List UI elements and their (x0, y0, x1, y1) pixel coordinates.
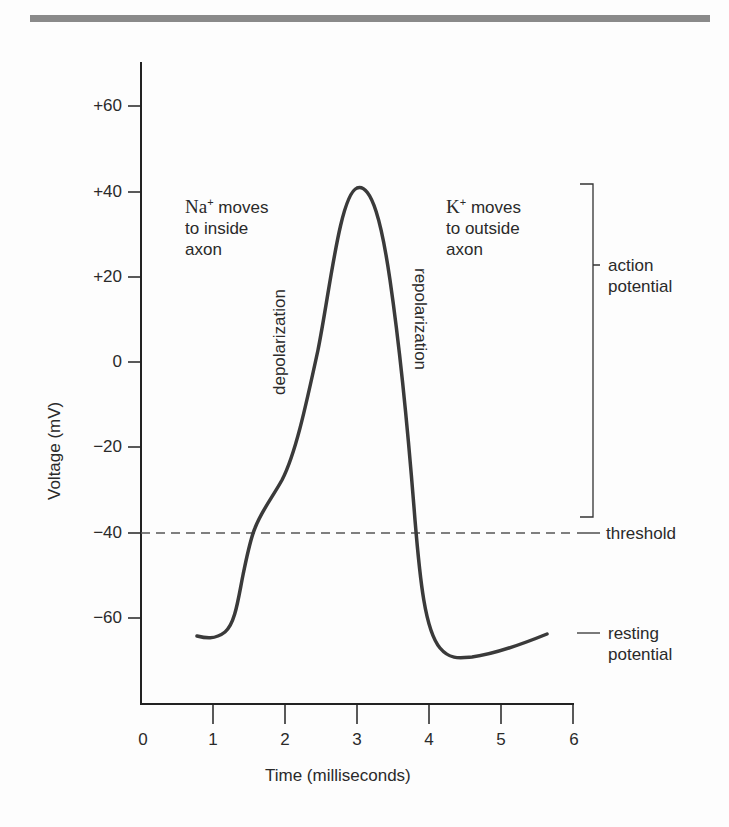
x-tick-label: 2 (275, 730, 295, 750)
x-tick-label: 3 (347, 730, 367, 750)
y-ticks (128, 106, 141, 618)
chart-canvas (0, 0, 729, 827)
k-line2: to outside (446, 218, 521, 239)
y-tick-label: +40 (62, 182, 122, 202)
depolarization-label: depolarization (270, 289, 290, 395)
x-axis-title: Time (milliseconds) (265, 765, 411, 786)
resting-line2: potential (608, 644, 672, 665)
y-tick-label: +60 (62, 96, 122, 116)
threshold-label: threshold (606, 523, 676, 544)
resting-potential-label: resting potential (608, 623, 672, 665)
y-tick-label: +20 (62, 267, 122, 287)
y-tick-label: −40 (62, 523, 122, 543)
na-annotation: Na+ moves to inside axon (185, 196, 268, 260)
k-annotation: K+ moves to outside axon (446, 196, 521, 260)
y-tick-label: −60 (62, 608, 122, 628)
k-ion: K (446, 196, 460, 217)
x-tick-label: 5 (491, 730, 511, 750)
x-tick-label: 4 (419, 730, 439, 750)
x-ticks (213, 704, 573, 724)
k-text: moves (466, 198, 521, 217)
action-potential-bracket (580, 184, 600, 517)
x-tick-label: 1 (203, 730, 223, 750)
action-line1: action (608, 255, 672, 276)
y-tick-label: −20 (62, 437, 122, 457)
resting-line1: resting (608, 623, 672, 644)
action-line2: potential (608, 276, 672, 297)
na-line3: axon (185, 239, 268, 260)
y-tick-label: 0 (62, 352, 122, 372)
na-line2: to inside (185, 218, 268, 239)
na-text: moves (214, 198, 269, 217)
y-axis-title: Voltage (mV) (45, 402, 65, 500)
repolarization-label: repolarization (410, 268, 430, 370)
k-line3: axon (446, 239, 521, 260)
x-tick-label: 6 (564, 730, 584, 750)
na-ion: Na (185, 196, 207, 217)
x-tick-label: 0 (133, 730, 153, 750)
action-potential-label: action potential (608, 255, 672, 297)
